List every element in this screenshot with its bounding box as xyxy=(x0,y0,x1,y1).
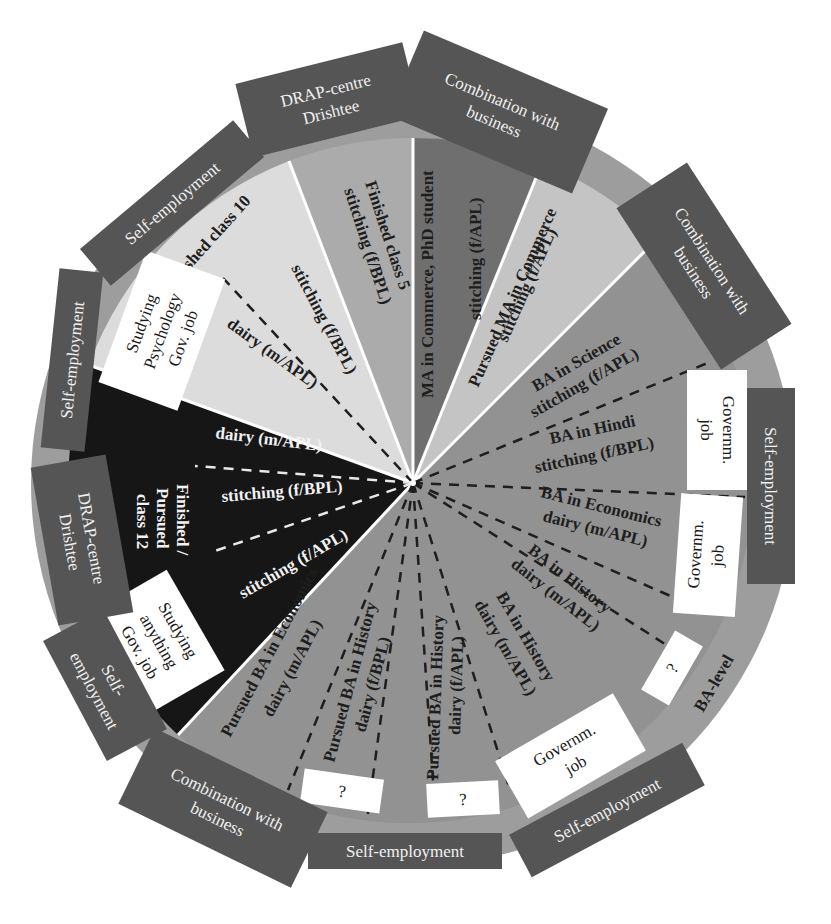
pursued-ba-history-fapl-line2: dairy (f/APL) xyxy=(445,636,467,735)
outer-label-self-employment-right: Self-employment xyxy=(747,388,795,584)
box-question-bottom-2: ? xyxy=(426,780,500,818)
class12-title-line1: Finished / xyxy=(173,484,192,556)
svg-text:Governm.: Governm. xyxy=(719,396,738,464)
svg-text:Self-employment: Self-employment xyxy=(761,427,780,545)
ma-commerce-line2: stitching (f/APL) xyxy=(466,198,485,320)
box-govt-job-right-1: Governm. job xyxy=(687,370,747,490)
career-pathway-radial-diagram: Finished class 10 stitching (f/BPL) dair… xyxy=(0,0,831,924)
class12-title-line2: Pursued xyxy=(153,488,172,549)
svg-text:?: ? xyxy=(459,790,468,809)
box-govt-job-right-2: Governm. job xyxy=(673,493,743,617)
center-point xyxy=(410,480,416,486)
ma-commerce-line1: MA in Commerce, PhD student xyxy=(418,170,437,398)
svg-text:Self-employment: Self-employment xyxy=(346,842,464,861)
outer-label-self-employment-bottom: Self-employment xyxy=(308,833,502,869)
svg-text:job: job xyxy=(697,418,716,441)
class12-title-line3: class 12 xyxy=(133,494,152,549)
svg-text:job: job xyxy=(707,544,728,568)
